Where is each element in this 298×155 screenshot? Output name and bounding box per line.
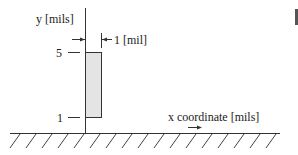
- tick-label-5: 5: [56, 46, 62, 60]
- conductor-rectangle: [86, 53, 102, 118]
- tick-label-1: 1: [57, 111, 63, 125]
- diagram-canvas: y [mils] 5 1 1 [mil]: [0, 0, 298, 155]
- x-direction-arrow: [188, 126, 202, 130]
- dimension-arrows: [72, 33, 112, 48]
- edge-artifact: [295, 9, 298, 25]
- dimension-label: 1 [mil]: [114, 33, 147, 47]
- ground-hatching: [10, 134, 276, 148]
- x-axis-label: x coordinate [mils]: [168, 110, 259, 124]
- y-axis-label: y [mils]: [36, 12, 74, 26]
